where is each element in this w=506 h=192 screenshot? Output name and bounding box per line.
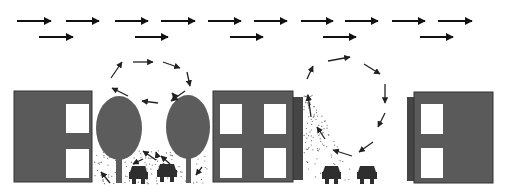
flow-arrow-icon bbox=[333, 150, 352, 156]
window bbox=[66, 149, 89, 178]
building-left bbox=[14, 91, 92, 182]
vortex-arrows-right-canyon bbox=[307, 57, 385, 156]
flow-arrow-icon bbox=[143, 151, 156, 160]
window bbox=[421, 148, 443, 178]
buildings bbox=[14, 91, 493, 183]
car-body bbox=[322, 166, 341, 179]
car-body bbox=[157, 164, 177, 177]
trees bbox=[96, 95, 210, 183]
window bbox=[421, 104, 443, 134]
tree-trunk bbox=[116, 158, 122, 183]
building-shade bbox=[293, 97, 303, 180]
car-wheel bbox=[370, 179, 374, 184]
flow-arrow-icon bbox=[378, 113, 385, 127]
car-body bbox=[357, 166, 377, 179]
flow-arrow-icon bbox=[359, 142, 373, 152]
building-right bbox=[407, 92, 493, 183]
tree-canopy bbox=[96, 96, 142, 160]
car-wheel bbox=[325, 179, 329, 184]
car-4 bbox=[357, 166, 377, 184]
car-wheel bbox=[334, 179, 338, 184]
diagram-canvas bbox=[0, 0, 506, 192]
prevailing-wind-arrows bbox=[17, 21, 472, 37]
car-wheel bbox=[160, 177, 164, 182]
car-2 bbox=[157, 164, 177, 182]
window bbox=[264, 104, 286, 134]
window bbox=[220, 104, 242, 134]
car-wheel bbox=[360, 179, 364, 184]
flow-arrow-icon bbox=[163, 62, 180, 68]
tree-trunk bbox=[186, 158, 191, 183]
flow-arrow-icon bbox=[142, 101, 158, 103]
window bbox=[66, 104, 89, 133]
car-wheel bbox=[170, 177, 174, 182]
flow-arrow-icon bbox=[328, 57, 350, 61]
car-wheel bbox=[141, 179, 145, 184]
flow-arrow-icon bbox=[111, 62, 122, 78]
flow-arrow-icon bbox=[307, 66, 313, 79]
flow-arrow-icon bbox=[196, 167, 202, 175]
flow-arrow-icon bbox=[156, 152, 158, 158]
car-1 bbox=[129, 166, 148, 184]
building-center bbox=[213, 91, 303, 182]
car-wheel bbox=[132, 179, 136, 184]
building-shade bbox=[407, 97, 414, 181]
car-body bbox=[129, 166, 148, 179]
car-3 bbox=[322, 166, 341, 184]
tree-canopy bbox=[166, 95, 210, 159]
window bbox=[220, 148, 242, 178]
street-canyon-diagram bbox=[0, 0, 506, 192]
window bbox=[264, 148, 286, 178]
flow-arrow-icon bbox=[364, 64, 380, 74]
flow-arrow-icon bbox=[161, 156, 170, 164]
flow-arrow-icon bbox=[112, 88, 128, 96]
flow-arrow-icon bbox=[187, 72, 190, 86]
